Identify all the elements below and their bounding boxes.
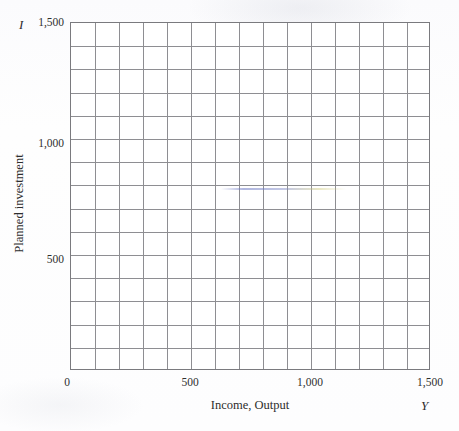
x-axis-title: Income, Output [160,398,340,413]
grid-hline [71,162,429,163]
grid-hline [71,93,429,94]
grid-vline [383,23,384,369]
x-axis-symbol: Y [421,398,428,414]
grid-hline [71,69,429,70]
grid-hline [71,139,429,140]
chart-figure: I 1,500 1,000 500 [0,0,459,431]
x-tick-label-0: 0 [37,376,97,388]
grid-hline [71,46,429,47]
grid-vline [167,23,168,369]
grid-vline [263,23,264,369]
grid-vline [335,23,336,369]
grid-vline [215,23,216,369]
grid-hline [71,232,429,233]
grid-hline [71,209,429,210]
y-tick-label-1500: 1,500 [18,16,64,28]
grid-hline [71,185,429,186]
grid-vline [359,23,360,369]
grid-hline [71,301,429,302]
grid-vline [191,23,192,369]
grid-hline [71,278,429,279]
grid-hline [71,255,429,256]
grid-lines [71,23,429,369]
grid-hline [71,116,429,117]
grid-vline [143,23,144,369]
x-tick-label-500: 500 [160,376,220,388]
grid-vline [119,23,120,369]
y-axis-title: Planned investment [12,124,27,284]
grid-vline [287,23,288,369]
x-tick-label-1000: 1,000 [280,376,340,388]
x-tick-label-1500: 1,500 [400,376,459,388]
grid-vline [407,23,408,369]
grid-vline [311,23,312,369]
scan-color-artifact [221,188,346,190]
grid-hline [71,348,429,349]
grid-hline [71,325,429,326]
grid-vline [239,23,240,369]
grid-vline [95,23,96,369]
plot-area [70,22,430,370]
